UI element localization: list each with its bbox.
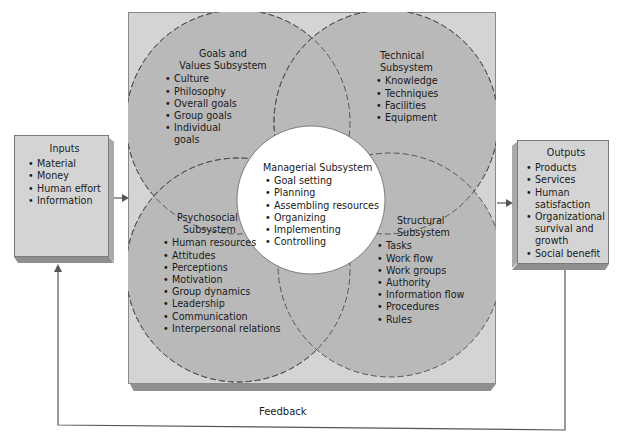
flow-arrows (0, 0, 624, 439)
feedback-line (58, 270, 565, 430)
feedback-label: Feedback (259, 406, 307, 417)
feedback-arrowhead-icon (54, 264, 62, 272)
input-arrowhead-icon (122, 194, 129, 202)
output-arrowhead-icon (506, 199, 513, 207)
